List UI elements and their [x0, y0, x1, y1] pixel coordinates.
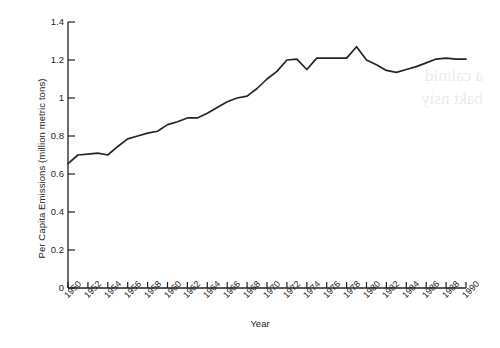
x-axis-title: Year — [215, 318, 305, 329]
y-tick-marks — [68, 22, 75, 288]
axis-lines — [68, 22, 466, 288]
chart-figure: Per Capita Emissions (million metric ton… — [0, 0, 500, 348]
data-line-series-0 — [68, 47, 466, 164]
